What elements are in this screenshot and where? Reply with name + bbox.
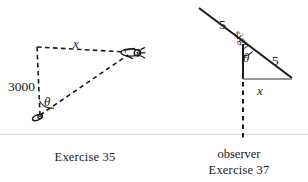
- figure-exercise-35: 3000 x θ Exercise 35: [0, 0, 170, 182]
- vertical-leg-line: [37, 47, 40, 115]
- label-observer: observer: [170, 147, 308, 162]
- caption-exercise-37: Exercise 37: [170, 163, 308, 178]
- label-sign-lower-5: 5: [272, 54, 279, 68]
- line-of-sight: [40, 55, 128, 115]
- label-angle-theta-left: θ: [44, 95, 50, 108]
- figure-exercise-37: 5 5 sign θ x observer Exercise 37: [170, 0, 308, 182]
- label-sign-upper-5: 5: [219, 18, 226, 32]
- figure-page: 3000 x θ Exercise 35 5 5 sign θ x observ…: [0, 0, 308, 182]
- label-horizontal-distance-x: x: [257, 84, 263, 97]
- label-vertical-leg-3000: 3000: [8, 80, 35, 94]
- airplane-icon: [121, 47, 146, 58]
- observer-eye-icon: [32, 113, 44, 122]
- label-horizontal-leg-x: x: [73, 37, 79, 50]
- caption-exercise-35: Exercise 35: [0, 150, 170, 165]
- horizontal-leg-line: [37, 47, 126, 52]
- label-angle-theta-right: θ: [243, 51, 249, 64]
